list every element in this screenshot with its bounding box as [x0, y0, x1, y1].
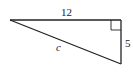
hypotenuse: [10, 20, 121, 64]
right-side-label: 5: [125, 37, 131, 49]
top-side-label: 12: [61, 6, 72, 18]
hypotenuse-label: c: [56, 41, 61, 53]
right-angle-marker: [111, 20, 121, 30]
right-triangle-diagram: 12 5 c: [0, 0, 133, 81]
